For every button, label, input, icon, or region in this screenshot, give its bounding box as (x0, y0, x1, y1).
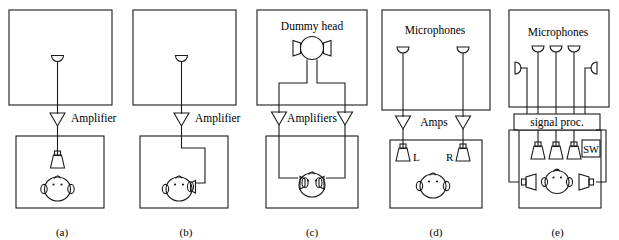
dummy-head-label: Dummy head (281, 20, 344, 33)
loudspeaker-front-left-icon (531, 146, 545, 159)
source-room-b (133, 10, 236, 105)
panel-e-drawing: Microphones signal proc. SW (496, 0, 619, 240)
panel-d-caption: (d) (376, 226, 496, 238)
eye-left-icon (174, 183, 176, 185)
loudspeaker-right-icon (456, 148, 470, 161)
microphone-front-center-icon (550, 46, 562, 52)
panel-a-caption: (a) (0, 226, 124, 238)
panel-a: Amplifier (a) (0, 0, 124, 240)
panel-c-caption: (c) (248, 226, 376, 238)
panel-b-drawing: Amplifier (124, 0, 248, 240)
listener-head (299, 173, 325, 197)
eye-right-icon (436, 180, 438, 182)
eye-left-icon (552, 176, 554, 178)
panel-d: Microphones Amps L R (d) (376, 0, 496, 240)
amps-label: Amps (420, 116, 448, 129)
panel-e: Microphones signal proc. SW (e) (496, 0, 619, 240)
microphone-side-left-icon (515, 62, 521, 74)
right-channel-label: R (446, 151, 454, 163)
eye-left-icon (307, 179, 309, 181)
loudspeaker-front-right-icon (567, 146, 581, 159)
loudspeaker-surround-right-icon (579, 174, 589, 190)
amplifier-label: Amplifier (195, 112, 241, 125)
panel-b: Amplifier (b) (124, 0, 248, 240)
listener-head (545, 171, 569, 194)
microphone-icon (176, 56, 188, 62)
dummy-ear-left-icon (293, 41, 301, 57)
microphones-label: Microphones (405, 24, 466, 37)
listener-head (45, 177, 71, 201)
microphone-side-right-icon (591, 62, 597, 74)
listening-room-a (16, 136, 104, 208)
signal-processor-label: signal proc. (530, 116, 584, 129)
sw-label: SW (583, 144, 599, 155)
source-room-a (9, 10, 112, 105)
listening-room-b (140, 136, 228, 208)
eye-right-icon (60, 183, 62, 185)
loudspeaker-surround-left-body-e (522, 179, 527, 185)
amplifier-left-icon (396, 116, 411, 129)
microphone-icon (52, 56, 64, 62)
eye-right-icon (560, 176, 562, 178)
loudspeaker-surround-left-icon (526, 174, 536, 190)
eye-left-icon (52, 183, 54, 185)
amplifier-icon (50, 113, 65, 126)
microphone-front-left-icon (532, 46, 544, 52)
amplifiers-label: Amplifiers (287, 112, 337, 125)
panel-c-drawing: Dummy head Amplifiers (248, 0, 376, 240)
panel-d-drawing: Microphones Amps L R (376, 0, 496, 240)
amplifier-label: Amplifier (71, 112, 117, 125)
microphones-label: Microphones (528, 26, 589, 39)
amplifier-icon (174, 113, 189, 126)
left-channel-label: L (413, 151, 420, 163)
sp-out-surround-left-e (509, 130, 519, 182)
microphone-left-icon (397, 47, 409, 53)
panel-a-drawing: Amplifier (0, 0, 124, 240)
loudspeaker-left-icon (396, 148, 410, 161)
panel-c: Dummy head Amplifiers (c) (248, 0, 376, 240)
amplifier-left-icon (272, 112, 287, 125)
panel-b-caption: (b) (124, 226, 248, 238)
eye-right-icon (182, 183, 184, 185)
headphone-cable-b (182, 126, 206, 183)
amp-right-out-c (326, 125, 345, 178)
loudspeaker-front-center-icon (549, 146, 563, 159)
listener-head (420, 174, 446, 198)
eye-left-icon (428, 180, 430, 182)
figure-sound-systems: Amplifier (a) (0, 0, 619, 240)
panel-e-caption: (e) (496, 226, 619, 238)
loudspeaker-icon (51, 155, 65, 168)
source-room-e (509, 10, 609, 107)
dummy-head-icon (301, 37, 324, 60)
loudspeaker-surround-right-body-e (589, 179, 594, 185)
amplifier-right-icon (456, 116, 471, 129)
microphone-front-right-icon (568, 46, 580, 52)
dummy-ear-right-icon (324, 41, 332, 57)
eye-right-icon (315, 179, 317, 181)
amplifier-right-icon (338, 112, 353, 125)
microphone-right-icon (457, 47, 469, 53)
amp-left-out-c (279, 125, 298, 178)
